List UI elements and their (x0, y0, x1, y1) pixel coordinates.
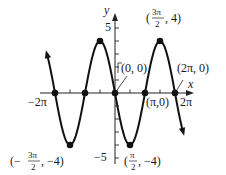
key-point-dot (52, 90, 59, 97)
svg-text:2: 2 (155, 19, 160, 29)
svg-text:, −4): , −4) (138, 154, 161, 168)
y-axis-label: y (103, 3, 110, 17)
svg-text:(: ( (124, 154, 128, 168)
x-tick-label-neg2pi: −2π (28, 95, 47, 109)
point-label-peak: ( 3π 2 , 4) (146, 7, 181, 29)
svg-text:2: 2 (31, 162, 36, 172)
point-label-pi: (π,0) (146, 95, 169, 109)
point-label-origin: (0, 0) (121, 61, 147, 75)
svg-text:3π: 3π (28, 150, 38, 160)
point-label-trough-left: (− 3π 2 , −4) (10, 150, 64, 172)
svg-text:π: π (130, 150, 135, 160)
y-axis-arrow-icon (112, 13, 118, 21)
point-label-trough-right: ( π 2 , −4) (124, 150, 161, 172)
key-point-dot (127, 142, 134, 149)
svg-text:2: 2 (131, 162, 136, 172)
x-tick-label-2pi: 2π (180, 95, 192, 109)
svg-text:(: ( (146, 11, 150, 25)
key-point-dot (67, 142, 74, 149)
key-point-dot (157, 38, 164, 45)
curve-arrow-left-icon (45, 50, 51, 59)
curve-arrow-right-icon (179, 127, 185, 136)
svg-text:, 4): , 4) (165, 11, 181, 25)
x-axis-label: x (187, 77, 194, 91)
svg-text:(−: (− (10, 154, 21, 168)
sine-graph: y 5 −5 x −2π 2π (0, 0) (π,0) (2π, 0) ( 3… (0, 0, 226, 175)
twopi-leader-line (175, 80, 183, 93)
y-tick-label-neg5: −5 (94, 150, 107, 164)
point-label-2pi: (2π, 0) (177, 61, 209, 75)
svg-text:3π: 3π (152, 7, 162, 17)
key-point-dot (82, 90, 89, 97)
origin-leader-line (115, 76, 127, 93)
y-tick-label-5: 5 (105, 20, 111, 34)
key-point-dot (97, 38, 104, 45)
svg-text:, −4): , −4) (41, 154, 64, 168)
